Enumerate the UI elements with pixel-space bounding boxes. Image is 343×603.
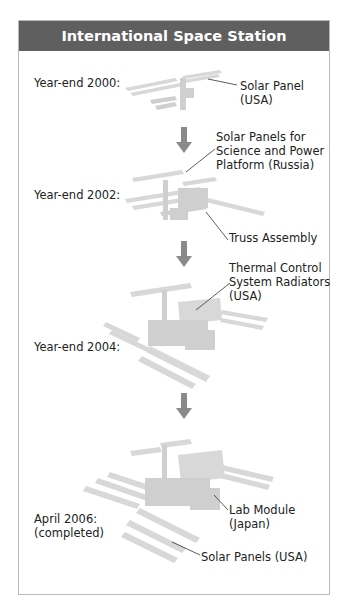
down-arrow-2 bbox=[176, 241, 192, 267]
leader-line-russia-panels bbox=[186, 149, 215, 172]
callout-lab-module: Lab Module (Japan) bbox=[229, 503, 295, 531]
callout-thermal-radiators: Thermal Control System Radiators (USA) bbox=[229, 261, 330, 303]
stage-label-2006: April 2006: (completed) bbox=[34, 512, 104, 540]
stage-label-2000: Year-end 2000: bbox=[34, 76, 120, 90]
callout-solar-panel-usa: Solar Panel (USA) bbox=[240, 79, 304, 107]
callout-russia-solar-panels: Solar Panels for Science and Power Platf… bbox=[216, 130, 324, 172]
station-2006 bbox=[83, 439, 274, 563]
leader-line-truss bbox=[206, 212, 228, 240]
stage-label-2004: Year-end 2004: bbox=[34, 340, 120, 354]
station-2000 bbox=[125, 70, 222, 110]
down-arrow-3 bbox=[176, 393, 192, 419]
leader-line-solar-panel bbox=[208, 79, 237, 85]
station-2002 bbox=[125, 170, 265, 220]
callout-solar-panels-usa: Solar Panels (USA) bbox=[201, 550, 307, 564]
stage-label-2002: Year-end 2002: bbox=[34, 188, 120, 202]
down-arrow-1 bbox=[176, 127, 192, 153]
callout-truss-assembly: Truss Assembly bbox=[229, 231, 317, 245]
